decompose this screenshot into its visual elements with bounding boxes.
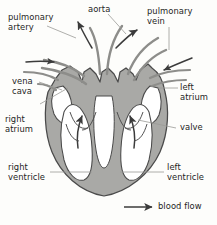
label-left-ventricle: left ventricle — [167, 163, 204, 182]
leader-aorta — [108, 14, 126, 34]
label-valve: valve — [180, 123, 203, 133]
heart-chambers — [52, 86, 161, 180]
vena-cava-inflow-arrow — [26, 61, 54, 62]
legend-blood-flow-label: blood flow — [158, 202, 202, 212]
figure-canvas: aorta pulmonary artery pulmonary vein ve… — [0, 0, 217, 225]
aorta-outflow-arrow — [78, 22, 92, 48]
pulmonary-vein-inflow-arrow — [164, 58, 192, 70]
label-vena-cava: vena cava — [12, 77, 33, 96]
label-right-ventricle: right ventricle — [8, 163, 45, 182]
label-pulmonary-vein: pulmonary vein — [147, 7, 193, 26]
label-right-atrium: right atrium — [5, 115, 33, 134]
heart-diagram — [0, 0, 217, 225]
label-left-atrium: left atrium — [180, 83, 208, 102]
label-pulmonary-artery: pulmonary artery — [8, 13, 54, 32]
label-aorta: aorta — [88, 5, 110, 15]
